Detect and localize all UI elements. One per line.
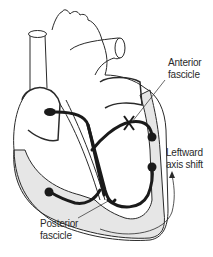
heart-conduction-diagram bbox=[0, 0, 213, 257]
leftward-axis-shift-label-line1: Leftward bbox=[166, 147, 203, 159]
anterior-endpoint bbox=[148, 133, 157, 142]
posterior-fascicle-label-line2: fascicle bbox=[40, 230, 78, 242]
posterior-fascicle-label: Posterior fascicle bbox=[40, 218, 78, 242]
anterior-fascicle-label-line1: Anterior bbox=[168, 57, 201, 69]
posterior-endpoint bbox=[45, 188, 54, 197]
leftward-axis-shift-label: Leftward axis shift bbox=[166, 147, 203, 171]
right-lower-endpoint bbox=[148, 163, 157, 172]
posterior-fascicle-label-line1: Posterior bbox=[40, 218, 78, 230]
sa-node bbox=[44, 108, 56, 116]
anterior-fascicle-label-line2: fascicle bbox=[168, 69, 201, 81]
leftward-axis-shift-label-line2: axis shift bbox=[166, 159, 203, 171]
ventricular-myocardium bbox=[14, 90, 165, 238]
anterior-fascicle-label: Anterior fascicle bbox=[168, 57, 201, 81]
